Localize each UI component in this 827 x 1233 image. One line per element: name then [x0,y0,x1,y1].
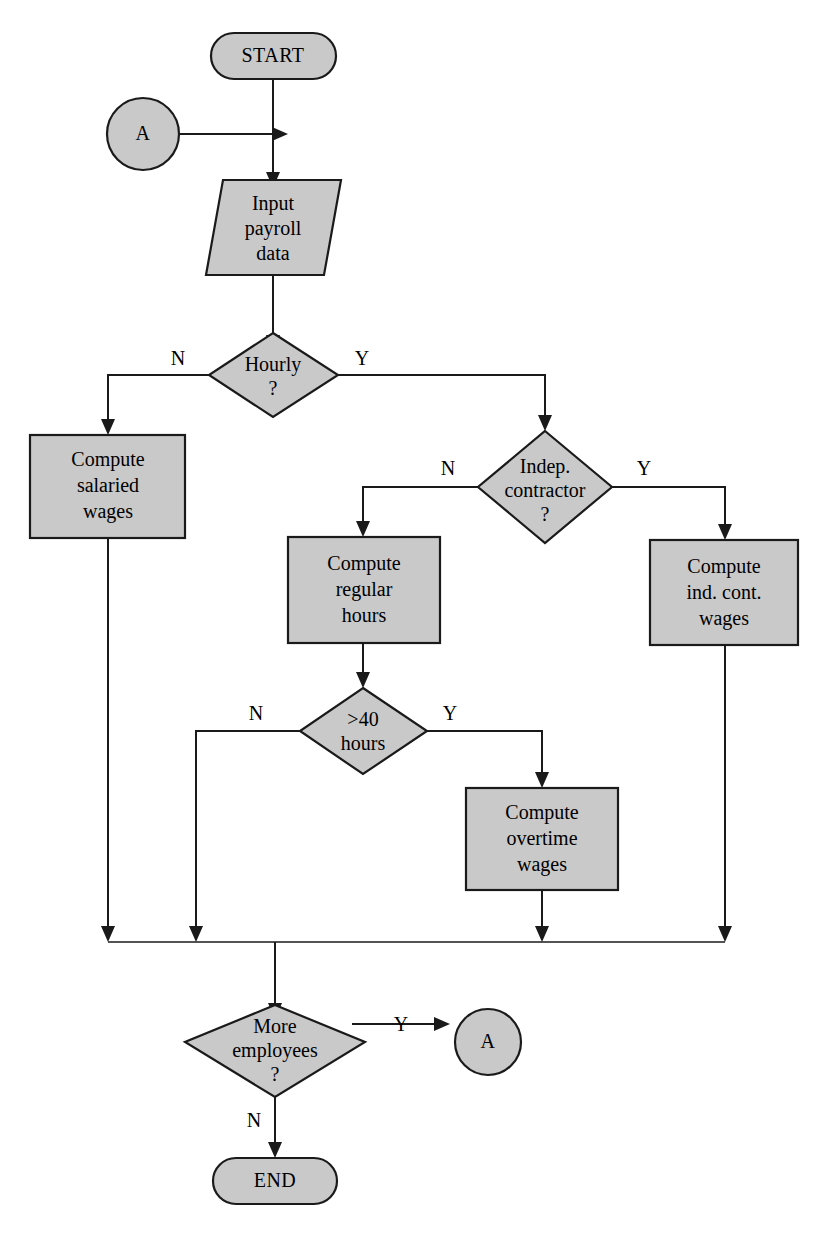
node-indcont-line3: wages [699,607,749,630]
edge-salaried-to-merge [101,538,115,942]
node-overtime-line1: Compute [505,801,578,824]
edge-indep-yes-to-indcont [612,487,732,540]
branch-label-hourly-yes: Y [355,347,369,369]
node-indcont-line1: Compute [687,555,760,578]
node-ind-cont-wages[interactable]: Compute ind. cont. wages [650,540,798,645]
node-end-label: END [254,1169,297,1191]
node-overtime[interactable]: Compute overtime wages [466,788,618,890]
node-regular-line2: regular [336,578,393,601]
node-input-payroll-line1: Input [252,192,295,215]
branch-label-hourly-no: N [171,347,185,369]
node-end[interactable]: END [213,1158,337,1204]
node-more-employees[interactable]: More employees ? [185,1005,365,1097]
node-over40-line1: >40 [347,708,378,730]
node-salaried[interactable]: Compute salaried wages [30,435,185,538]
node-overtime-line2: overtime [506,827,577,849]
flowchart-svg: START A Input payroll data Hourly ? N Y … [0,0,827,1233]
node-salaried-line1: Compute [71,448,144,471]
edge-over40-no-to-merge [189,731,300,942]
node-indep-line1: Indep. [520,455,571,478]
branch-label-over40-yes: Y [443,702,457,724]
node-connector-in[interactable]: A [107,98,179,170]
node-indep-line3: ? [541,503,550,525]
node-over40-decision[interactable]: >40 hours [300,688,427,774]
node-input-payroll-line3: data [256,242,289,264]
branch-label-more-yes: Y [394,1013,408,1035]
node-overtime-line3: wages [517,853,567,876]
branch-label-indep-no: N [441,457,455,479]
node-more-emp-line2: employees [232,1039,318,1062]
edge-hourly-yes-to-indep [338,375,552,431]
node-hourly-decision[interactable]: Hourly ? [209,333,338,417]
node-salaried-line2: salaried [77,474,139,496]
node-regular-line1: Compute [327,552,400,575]
node-connector-in-label: A [136,122,151,144]
edge-regular-to-over40 [356,643,370,688]
node-over40-line2: hours [341,732,386,754]
edge-indep-no-to-regular [356,487,478,537]
flowchart-canvas: START A Input payroll data Hourly ? N Y … [0,0,827,1233]
node-connector-out[interactable]: A [455,1009,521,1075]
branch-label-more-no: N [247,1109,261,1131]
node-regular-hours[interactable]: Compute regular hours [288,537,440,643]
node-regular-line3: hours [342,604,387,626]
edge-overtime-to-merge [535,890,549,942]
node-indep-line2: contractor [504,479,585,501]
branch-label-over40-no: N [249,702,263,724]
node-start-label: START [241,44,304,66]
node-hourly-line1: Hourly [245,353,302,376]
edge-indcont-to-merge [718,645,732,942]
node-indcont-line2: ind. cont. [687,581,762,603]
node-indep-decision[interactable]: Indep. contractor ? [478,431,612,543]
branch-label-indep-yes: Y [637,457,651,479]
node-start[interactable]: START [211,33,336,79]
node-more-emp-line1: More [253,1015,296,1037]
node-more-emp-line3: ? [271,1063,280,1085]
edge-over40-yes-to-overtime [427,731,549,788]
node-connector-out-label: A [481,1030,496,1052]
node-hourly-line2: ? [269,377,278,399]
node-input-payroll-line2: payroll [245,217,302,240]
node-salaried-line3: wages [83,500,133,523]
edge-hourly-no-to-salaried [101,375,209,435]
edge-connector-a-to-main [178,127,288,141]
node-input-payroll[interactable]: Input payroll data [206,180,341,275]
